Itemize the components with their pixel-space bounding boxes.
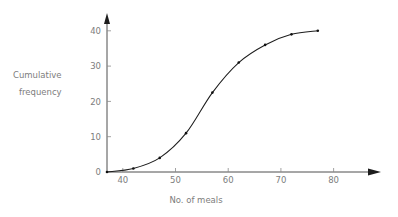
data-point-marker bbox=[158, 157, 161, 160]
x-tick-label: 80 bbox=[328, 175, 339, 185]
x-tick-labels: 4050607080 bbox=[117, 175, 339, 185]
chart-canvas: 010203040 4050607080 Cumulative frequenc… bbox=[0, 0, 398, 217]
y-tick-labels: 010203040 bbox=[90, 26, 101, 177]
x-tick-marks bbox=[123, 168, 334, 172]
y-tick-label: 10 bbox=[90, 132, 101, 142]
y-axis-arrowhead bbox=[104, 13, 110, 24]
data-point-marker bbox=[185, 132, 188, 135]
ogive-curve bbox=[107, 31, 318, 172]
x-axis: 4050607080 bbox=[107, 168, 381, 185]
cumulative-frequency-chart: 010203040 4050607080 Cumulative frequenc… bbox=[0, 0, 398, 217]
data-point-marker bbox=[317, 30, 320, 33]
y-tick-label: 40 bbox=[90, 26, 101, 36]
data-point-marker bbox=[290, 33, 293, 36]
data-point-marker bbox=[237, 61, 240, 64]
y-axis-title-line2: frequency bbox=[19, 87, 62, 97]
x-axis-arrowhead bbox=[368, 169, 381, 176]
y-tick-marks bbox=[107, 31, 111, 137]
y-tick-label: 20 bbox=[90, 97, 101, 107]
y-tick-label: 30 bbox=[90, 61, 101, 71]
x-tick-label: 60 bbox=[223, 175, 234, 185]
x-tick-label: 50 bbox=[170, 175, 181, 185]
data-point-marker bbox=[264, 44, 267, 47]
x-tick-label: 70 bbox=[275, 175, 286, 185]
y-axis: 010203040 bbox=[90, 13, 111, 177]
x-axis-title: No. of meals bbox=[169, 195, 223, 205]
y-tick-label: 0 bbox=[96, 167, 101, 177]
x-tick-label: 40 bbox=[117, 175, 128, 185]
data-point-marker bbox=[106, 171, 109, 174]
data-point-marker bbox=[211, 91, 214, 94]
data-point-markers bbox=[106, 30, 319, 174]
data-point-marker bbox=[132, 167, 135, 170]
y-axis-title-line1: Cumulative bbox=[13, 70, 62, 80]
